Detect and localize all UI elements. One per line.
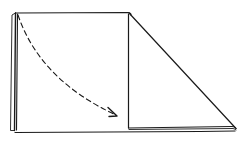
fold-arrow-dashed-curve [18,15,116,115]
napkin-fold-diagram [0,0,247,142]
square-panel [11,13,236,133]
triangle-flap [129,13,237,130]
fold-arrow [18,15,117,117]
